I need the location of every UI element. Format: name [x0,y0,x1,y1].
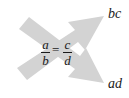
numerator-a: a [42,38,49,52]
fraction-c-over-d: c d [63,38,72,67]
product-label-ad: ad [108,77,122,91]
denominator-b: b [42,53,49,67]
denominator-d: d [64,53,71,67]
cross-multiplication-diagram: a b = c d bc ad [0,0,129,98]
fraction-a-over-b: a b [41,38,50,67]
equals-sign: = [52,43,59,56]
numerator-c: c [65,38,71,52]
product-label-bc: bc [108,7,121,21]
